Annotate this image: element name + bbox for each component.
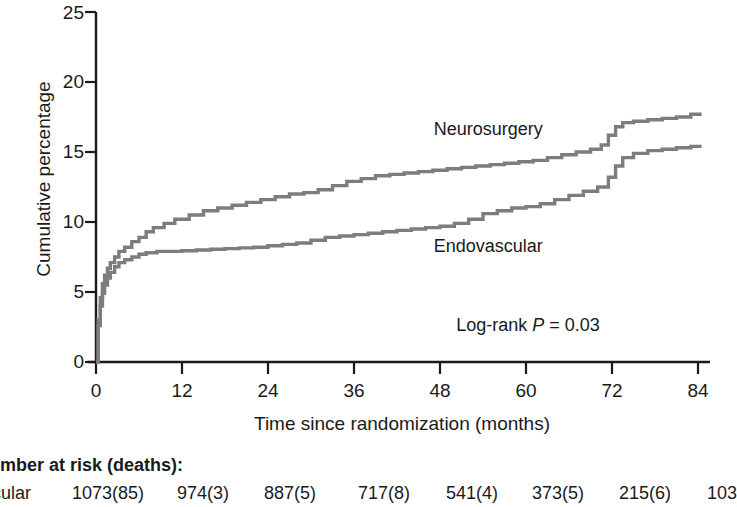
risk-cell-84: 103 xyxy=(707,483,737,504)
risk-cell-12: 974(3) xyxy=(177,483,229,504)
risk-table-title: Number at risk (deaths): xyxy=(0,455,183,476)
axes-group xyxy=(85,12,710,374)
risk-cell-60: 373(5) xyxy=(532,483,584,504)
risk-cell-72: 215(6) xyxy=(619,483,671,504)
risk-cell-36: 717(8) xyxy=(358,483,410,504)
risk-cell-48: 541(4) xyxy=(446,483,498,504)
log-rank-text: Log-rank xyxy=(456,315,532,335)
series-label-neurosurgery: Neurosurgery xyxy=(434,119,543,140)
series-line-endovascular xyxy=(96,146,702,362)
x-axis-title: Time since randomization (months) xyxy=(96,413,708,435)
series-group xyxy=(96,114,702,362)
risk-cell-0: 1073(85) xyxy=(72,483,144,504)
log-rank-annotation: Log-rank P = 0.03 xyxy=(456,315,600,336)
p-value-text: = 0.03 xyxy=(544,315,600,335)
p-symbol: P xyxy=(532,315,544,335)
series-line-neurosurgery xyxy=(96,114,702,362)
series-label-endovascular: Endovascular xyxy=(434,236,543,257)
risk-row-label-endovascular: Endovascular xyxy=(0,483,31,504)
risk-cell-24: 887(5) xyxy=(264,483,316,504)
